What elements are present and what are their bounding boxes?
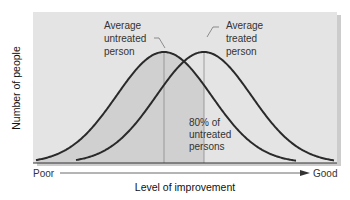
treated-label-3: person [226, 46, 257, 57]
y-axis-title: Number of people [10, 46, 22, 130]
pct-label-1: 80% of [189, 117, 220, 128]
untreated-label-3: person [104, 46, 135, 57]
treated-label-1: Average [226, 20, 264, 31]
chart: Average untreated person Average treated… [0, 0, 350, 200]
untreated-label-1: Average [104, 20, 142, 31]
arrow-right-icon [300, 170, 310, 176]
treated-label-2: treated [226, 33, 257, 44]
x-axis-poor: Poor [33, 168, 55, 179]
pct-label-2: untreated [189, 129, 231, 140]
untreated-label-2: untreated [104, 33, 146, 44]
x-axis-title: Level of improvement [135, 181, 235, 193]
x-axis-good: Good [313, 168, 337, 179]
pct-label-3: persons [189, 141, 225, 152]
